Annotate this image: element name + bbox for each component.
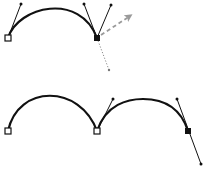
handle-point-icon[interactable] (20, 3, 23, 6)
anchor-open-icon[interactable] (94, 128, 100, 134)
dotted-guide-line (97, 38, 109, 70)
anchor-open-icon[interactable] (5, 128, 11, 134)
top-path-group (5, 3, 130, 72)
anchor-open-icon[interactable] (5, 35, 11, 41)
handle-point-icon[interactable] (110, 4, 113, 7)
bottom-curve-1[interactable] (8, 96, 97, 131)
bezier-diagram (0, 0, 203, 170)
handle-point-icon[interactable] (200, 163, 203, 166)
bottom-handle-out[interactable] (97, 99, 113, 131)
handle-point-icon[interactable] (176, 98, 179, 101)
anchor-selected-icon[interactable] (185, 128, 191, 134)
guide-end-point-icon (108, 69, 110, 71)
anchor-selected-icon[interactable] (94, 35, 100, 41)
handle-point-icon[interactable] (112, 98, 115, 101)
bottom-path-group (5, 96, 203, 166)
handle-point-icon[interactable] (83, 3, 86, 6)
top-curve[interactable] (8, 9, 97, 38)
